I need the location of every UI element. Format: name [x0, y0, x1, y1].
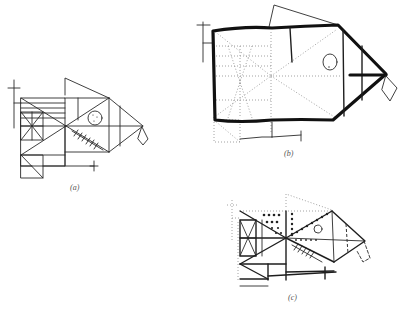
bead-row-top	[263, 214, 282, 234]
panel-a-label: (a)	[70, 183, 80, 192]
panel-c-label: (c)	[288, 293, 297, 302]
figure-canvas: (a)	[0, 0, 404, 310]
panel-c-drawing	[227, 194, 370, 286]
panel-a-drawing	[8, 78, 148, 178]
bead-column	[291, 213, 293, 235]
panel-b-drawing	[197, 5, 397, 142]
panel-b-label: (b)	[284, 149, 294, 158]
